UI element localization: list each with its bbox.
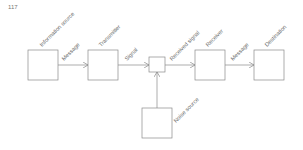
label-noise-source: Noise source — [172, 96, 199, 123]
label-info-source: Information source — [38, 11, 75, 48]
noise-source-box — [142, 108, 172, 138]
channel-box — [149, 57, 165, 72]
info-source-box — [28, 50, 58, 80]
communication-diagram: Information source Message Transmitter S… — [0, 0, 303, 150]
label-receiver: Receiver — [204, 28, 224, 48]
transmitter-box — [88, 50, 118, 80]
label-message-1: Message — [60, 41, 80, 61]
receiver-box — [195, 50, 225, 80]
label-signal: Signal — [123, 46, 138, 61]
label-message-2: Message — [229, 41, 249, 61]
label-transmitter: Transmitter — [97, 24, 121, 48]
destination-box — [254, 50, 284, 80]
label-destination: Destination — [263, 24, 287, 48]
